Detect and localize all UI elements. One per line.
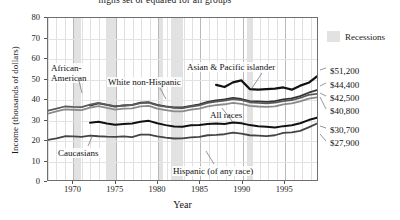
y-tick-label-0: 0 [14, 176, 40, 186]
series-line-asian-pacific-islander [216, 76, 317, 89]
y-tick-label-60: 60 [14, 53, 40, 63]
value-label-asian-pacific-islander: $51,200 [330, 66, 359, 76]
series-line-hispanic-of-any-race [90, 118, 317, 128]
x-tick-label-1975: 1975 [95, 184, 135, 194]
y-tick-label-50: 50 [14, 74, 40, 84]
value-label-all-races: $40,800 [330, 106, 359, 116]
y-tick-label-70: 70 [14, 33, 40, 43]
x-tick-label-1990: 1990 [222, 184, 262, 194]
annotation-asian-pacific-islander: Asian & Pacific islander [186, 62, 276, 72]
annotation-african-american: African- American [50, 63, 87, 83]
x-tick-label-1995: 1995 [264, 184, 304, 194]
chart-title: highs set or equaled for all groups [0, 0, 330, 5]
value-label-caucasians: $42,500 [330, 93, 359, 103]
y-tick-label-40: 40 [14, 94, 40, 104]
x-tick-label-1980: 1980 [137, 184, 177, 194]
y-tick-label-20: 20 [14, 135, 40, 145]
value-label-white-non-hispanic: $44,400 [330, 80, 359, 90]
y-tick-label-10: 10 [14, 156, 40, 166]
x-tick-1970 [72, 181, 73, 184]
x-tick-1975 [115, 181, 116, 184]
annotation-white-non-hispanic: White non-Hispanic [107, 77, 182, 87]
legend-label-recessions: Recessions [345, 32, 385, 42]
y-tick-label-30: 30 [14, 115, 40, 125]
y-tick-label-80: 80 [14, 12, 40, 22]
value-label-hispanic: $30,700 [330, 125, 359, 135]
x-tick-1980 [157, 181, 158, 184]
recession-swatch-icon [327, 31, 340, 42]
x-tick-1990 [242, 181, 243, 184]
annotation-all-races: All races [209, 110, 243, 120]
annotation-caucasians: Caucasians [57, 148, 100, 158]
value-label-african-american: $27,900 [330, 138, 359, 148]
chart-figure: highs set or equaled for all groups Inco… [0, 0, 400, 220]
annotation-hispanic: Hispanic (of any race) [172, 166, 254, 176]
x-tick-1985 [199, 181, 200, 184]
x-axis-title: Year [47, 199, 318, 210]
x-tick-label-1970: 1970 [52, 184, 92, 194]
x-tick-label-1985: 1985 [179, 184, 219, 194]
x-tick-1995 [284, 181, 285, 184]
legend: Recessions [327, 31, 385, 42]
y-tick-0 [44, 181, 47, 182]
